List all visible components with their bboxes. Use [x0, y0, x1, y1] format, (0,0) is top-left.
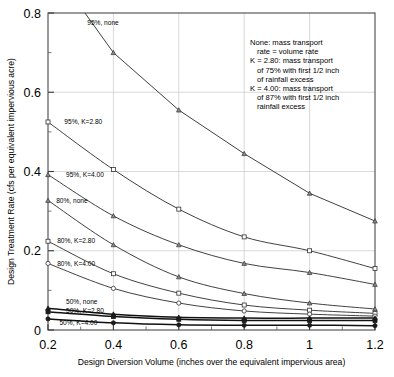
y-tick-label: 0 [34, 324, 41, 338]
data-marker-circle [46, 261, 50, 265]
series-line-95-none [85, 13, 375, 221]
series-label-95-none: 95%, none [87, 19, 119, 26]
data-marker-square [177, 291, 181, 295]
y-tick-labels: 00.20.40.60.8 [24, 7, 41, 338]
chart-figure: 95%, none95%, K=2.8095%, K=4.0080%, none… [0, 0, 394, 377]
data-marker-square [242, 303, 246, 307]
data-marker-triangle [307, 191, 312, 195]
data-marker-circle [242, 309, 246, 313]
data-marker-circle [373, 324, 377, 328]
annotation-line: rate = volume rate [257, 47, 318, 56]
data-marker-square [111, 315, 115, 319]
data-marker-triangle [46, 198, 51, 202]
data-marker-triangle [111, 243, 116, 247]
series-line-95-k-2-80 [48, 122, 375, 269]
x-tick-labels: 0.20.40.60.811.2 [39, 338, 383, 352]
x-tick-label: 0.8 [236, 338, 253, 352]
x-tick-label: 1 [306, 338, 313, 352]
series-label-95-k-4-00: 95%, K=4.00 [66, 171, 104, 178]
y-tick-label: 0.8 [24, 7, 41, 21]
data-marker-square [242, 235, 246, 239]
y-tick-label: 0.6 [24, 86, 41, 100]
data-marker-circle [111, 321, 115, 325]
series-label-50-k-2-80: 50%, K=2.80 [66, 307, 104, 314]
annotation-line: None: mass transport [250, 38, 323, 47]
data-marker-circle [242, 323, 246, 327]
data-marker-square [373, 318, 377, 322]
data-marker-square [46, 310, 50, 314]
annotation-line: of 75% with first 1/2 inch [257, 66, 339, 75]
data-marker-square [242, 318, 246, 322]
series-label-80-k-2-80: 80%, K=2.80 [57, 237, 95, 244]
x-axis-title: Design Diversion Volume (inches over the… [78, 357, 346, 367]
x-tick-label: 0.2 [39, 338, 56, 352]
data-marker-triangle [46, 172, 51, 176]
data-marker-triangle [111, 214, 116, 218]
annotation-line: rainfall excess [257, 102, 305, 111]
x-tick-label: 0.4 [105, 338, 122, 352]
y-axis-title: Design Treatment Rate (cfs per equivalen… [6, 58, 16, 285]
series-label-50-k-4-00: 50%, K=4.00 [59, 319, 97, 326]
x-tick-label: 1.2 [366, 338, 383, 352]
annotation-line: K = 2.80: mass transport [250, 56, 334, 65]
y-tick-label: 0.2 [24, 244, 41, 258]
data-marker-circle [177, 301, 181, 305]
series-label-50-none: 50%, none [66, 298, 98, 305]
design-treatment-rate-chart: 95%, none95%, K=2.8095%, K=4.0080%, none… [0, 0, 394, 377]
data-marker-square [373, 267, 377, 271]
data-marker-triangle [242, 151, 247, 155]
data-marker-circle [308, 323, 312, 327]
annotation-line: of rainfall excess [257, 75, 314, 84]
series-label-95-k-2-80: 95%, K=2.80 [64, 118, 102, 125]
y-tick-label: 0.4 [24, 165, 41, 179]
data-marker-square [111, 272, 115, 276]
series-label-80-k-4-00: 80%, K=4.00 [57, 260, 95, 267]
data-marker-square [177, 317, 181, 321]
data-marker-circle [46, 317, 50, 321]
data-marker-triangle [373, 219, 378, 223]
data-marker-circle [111, 286, 115, 290]
annotation-line: of 87% with first 1/2 inch [257, 93, 339, 102]
data-marker-square [308, 318, 312, 322]
series-line-95-k-4-00 [48, 175, 375, 285]
series-inline-labels: 95%, none95%, K=2.8095%, K=4.0080%, none… [56, 19, 119, 326]
data-marker-square [111, 168, 115, 172]
x-tick-label: 0.6 [170, 338, 187, 352]
data-marker-square [46, 120, 50, 124]
annotation-line: K = 4.00: mass transport [250, 84, 334, 93]
data-marker-square [46, 239, 50, 243]
data-marker-circle [177, 323, 181, 327]
data-marker-square [308, 308, 312, 312]
annotation-block: None: mass transportrate = volume rateK … [250, 38, 339, 111]
series-label-80-none: 80%, none [56, 197, 88, 204]
data-marker-square [177, 207, 181, 211]
data-marker-square [308, 249, 312, 253]
